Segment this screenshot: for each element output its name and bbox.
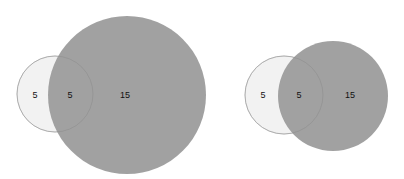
intersection-label: 5: [67, 90, 72, 100]
set-a-only-label: 5: [260, 90, 265, 100]
intersection-label: 5: [296, 90, 301, 100]
set-b-only-label: 15: [345, 90, 355, 100]
venn-left: 5 5 15: [17, 16, 206, 174]
venn-canvas: 5 5 15 5 5 15: [0, 0, 404, 179]
set-b-only-label: 15: [120, 90, 130, 100]
set-a-only-label: 5: [32, 90, 37, 100]
venn-right: 5 5 15: [245, 41, 388, 151]
